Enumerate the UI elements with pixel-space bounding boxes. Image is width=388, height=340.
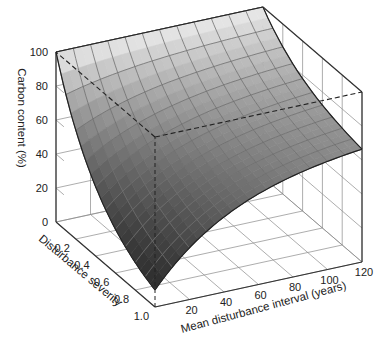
y-tick: 1.0 [134,310,149,322]
z-tick: 60 [36,114,48,126]
x-axis-label: Mean disturbance interval (years) [179,279,347,335]
z-tick: 40 [36,148,48,160]
z-tick: 100 [30,46,48,58]
x-tick: 60 [254,289,266,301]
surface-mesh [56,7,362,290]
x-tick: 20 [185,304,197,316]
z-axis-label: Carbon content (%) [16,68,28,168]
x-tick: 40 [220,296,232,308]
z-tick: 20 [36,182,48,194]
z-tick: 0 [42,216,48,228]
surface-chart: 0204060801000.20.40.60.81.02040608010012… [0,0,388,340]
x-tick: 120 [355,266,373,278]
z-tick: 80 [36,80,48,92]
